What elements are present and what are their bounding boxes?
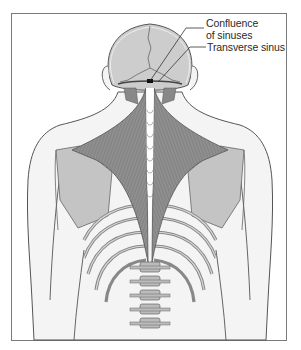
label-confluence-of-sinuses: Confluence of sinuses xyxy=(206,17,258,41)
label-line: Transverse sinus xyxy=(207,41,285,53)
label-transverse-sinus: Transverse sinus xyxy=(207,41,285,53)
label-line: Confluence xyxy=(206,17,258,29)
label-line: of sinuses xyxy=(206,29,258,41)
